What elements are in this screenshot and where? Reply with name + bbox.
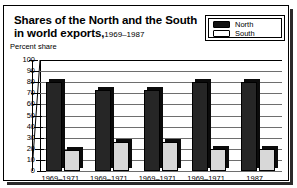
chart-title-line2: in world exports,: [14, 27, 104, 39]
y-tick-10: [36, 160, 45, 161]
y-tick-label-0: 0: [13, 167, 35, 174]
bar-front-face: [192, 82, 208, 171]
bar-south-2: [162, 142, 178, 171]
bar-front-face: [144, 90, 160, 171]
y-tick-label-50: 50: [13, 112, 35, 119]
y-tick-20: [35, 149, 44, 150]
y-tick-label-80: 80: [13, 78, 35, 85]
chart-title: Shares of the North and the South in wor…: [14, 14, 199, 41]
x-axis-label-0: 1969–1971: [36, 174, 85, 183]
legend-item-north: North: [213, 20, 253, 29]
legend-item-south: South: [213, 29, 255, 38]
y-tick-label-60: 60: [13, 100, 35, 107]
y-tick-label-100: 100: [13, 56, 35, 63]
bar-side-face: [80, 147, 83, 168]
gridline-0: [40, 171, 282, 172]
x-axis-label-2: 1969–1971: [133, 174, 182, 183]
y-tick-label-20: 20: [13, 145, 35, 152]
bar-north-4: [241, 82, 257, 171]
x-axis-label-3: 1969–1971: [182, 174, 231, 183]
y-tick-label-90: 90: [13, 67, 35, 74]
bar-north-0: [46, 82, 62, 171]
chart-frame: Shares of the North and the South in wor…: [3, 5, 289, 181]
bar-front-face: [259, 149, 275, 171]
chart-title-line1: Shares of the North and the South: [14, 14, 199, 27]
chart-title-years: 1969–1987: [104, 30, 144, 39]
bar-south-4: [259, 149, 275, 171]
frame-shadow-right: [290, 9, 293, 185]
y-tick-label-70: 70: [13, 89, 35, 96]
bar-side-face: [226, 146, 229, 168]
legend-inner-box: North South: [208, 18, 282, 38]
white-bar-icon: [213, 30, 230, 37]
y-tick-label-40: 40: [13, 123, 35, 130]
bar-front-face: [46, 82, 62, 171]
chart-figure: Shares of the North and the South in wor…: [0, 0, 297, 188]
bar-south-3: [210, 149, 226, 171]
y-tick-label-30: 30: [13, 134, 35, 141]
y-tick-0: [37, 171, 46, 172]
bar-north-1: [95, 90, 111, 171]
x-axis-label-4: 1987: [230, 174, 279, 183]
bar-front-face: [210, 149, 226, 171]
bar-front-face: [113, 142, 129, 171]
bar-front-face: [162, 142, 178, 171]
bar-south-0: [64, 150, 80, 171]
y-tick-label-10: 10: [13, 156, 35, 163]
bar-north-3: [192, 82, 208, 171]
bar-side-face: [178, 139, 181, 168]
black-bar-icon: [213, 21, 230, 28]
bar-north-2: [144, 90, 160, 171]
y-axis-title: Percent share: [10, 42, 57, 51]
gridline-90: [40, 71, 282, 72]
plot-area: 0102030405060708090100: [32, 53, 282, 171]
gridline-100: [40, 60, 282, 61]
bar-side-face: [275, 146, 278, 168]
x-axis-label-1: 1969–1971: [85, 174, 134, 183]
bar-front-face: [241, 82, 257, 171]
chart-legend: North South: [205, 15, 285, 41]
legend-label-north: North: [235, 21, 253, 29]
y-tick-30: [35, 138, 44, 139]
legend-label-south: South: [235, 30, 255, 38]
y-tick-40: [34, 127, 43, 128]
bar-front-face: [64, 150, 80, 171]
bar-side-face: [129, 139, 132, 168]
bar-front-face: [95, 90, 111, 171]
x-axis-labels: 1969–19711969–19711969–19711969–19711987: [32, 174, 282, 186]
bar-south-1: [113, 142, 129, 171]
